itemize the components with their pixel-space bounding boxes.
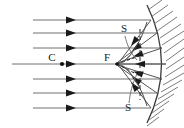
ray-arrow-3 xyxy=(66,45,76,52)
label-caustic-upper: S xyxy=(121,22,127,34)
incident-ray-arrowheads xyxy=(66,17,76,112)
diagram-canvas: C F S S xyxy=(0,0,184,128)
ray-arrow-2 xyxy=(66,30,76,37)
ray-arrow-7 xyxy=(66,105,76,112)
focus-point xyxy=(115,62,119,66)
ray-arrow-axis xyxy=(66,61,76,68)
ray-arrow-1 xyxy=(66,17,76,24)
center-of-curvature-point xyxy=(60,62,64,66)
label-caustic-lower: S xyxy=(125,101,131,113)
label-center-of-curvature: C xyxy=(48,51,55,63)
ray-arrow-6 xyxy=(66,90,76,97)
optics-ray-diagram: C F S S xyxy=(0,0,184,128)
ray-arrow-5 xyxy=(66,76,76,83)
label-focus: F xyxy=(104,51,110,63)
caustic-lower-branch xyxy=(117,64,147,106)
